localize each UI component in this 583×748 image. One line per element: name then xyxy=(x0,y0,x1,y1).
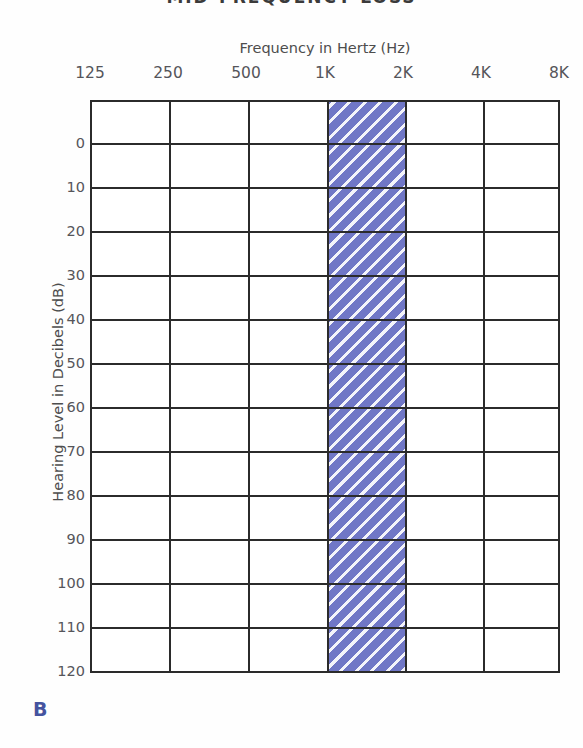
x-tick-8k: 8K xyxy=(527,64,583,82)
y-tick-90: 90 xyxy=(45,531,85,547)
y-tick-50: 50 xyxy=(45,355,85,371)
y-axis-tick-labels: 0 10 20 30 40 50 60 70 80 90 100 110 120 xyxy=(42,0,85,748)
x-tick-1k: 1K xyxy=(293,64,357,82)
grid-hline-100 xyxy=(92,583,558,585)
x-tick-250: 250 xyxy=(136,64,200,82)
grid-hline-30 xyxy=(92,275,558,277)
audiogram-plot-area xyxy=(90,100,560,673)
chart-title: MID-FREQUENCY LOSS xyxy=(0,0,583,7)
y-tick-120: 120 xyxy=(45,663,85,679)
panel-letter: B xyxy=(33,698,47,720)
grid-hline-80 xyxy=(92,495,558,497)
x-axis-title: Frequency in Hertz (Hz) xyxy=(90,40,560,56)
y-tick-60: 60 xyxy=(45,399,85,415)
y-tick-10: 10 xyxy=(45,179,85,195)
y-tick-110: 110 xyxy=(45,619,85,635)
x-tick-2k: 2K xyxy=(371,64,435,82)
x-tick-500: 500 xyxy=(214,64,278,82)
y-tick-100: 100 xyxy=(45,575,85,591)
grid-hline-10 xyxy=(92,187,558,189)
y-tick-80: 80 xyxy=(45,487,85,503)
grid-hline-90 xyxy=(92,539,558,541)
x-tick-4k: 4K xyxy=(449,64,513,82)
grid-hline-70 xyxy=(92,451,558,453)
y-tick-70: 70 xyxy=(45,443,85,459)
grid-hline-110 xyxy=(92,627,558,629)
y-tick-30: 30 xyxy=(45,267,85,283)
y-tick-0: 0 xyxy=(45,135,85,151)
grid-hline-60 xyxy=(92,407,558,409)
grid-hline-0 xyxy=(92,143,558,145)
grid-hline-40 xyxy=(92,319,558,321)
y-tick-20: 20 xyxy=(45,223,85,239)
grid-hline-20 xyxy=(92,231,558,233)
y-tick-40: 40 xyxy=(45,311,85,327)
grid-hline-50 xyxy=(92,363,558,365)
